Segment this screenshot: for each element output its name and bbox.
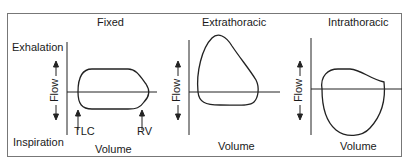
rv-label: RV [137, 126, 152, 137]
fixed-loop [78, 69, 149, 109]
flow-label-fixed: Flow [49, 79, 60, 102]
flow-label-intrathoracic: Flow [293, 79, 304, 102]
flow-label-extrathoracic: Flow [171, 79, 182, 102]
volume-label-intrathoracic: Volume [340, 141, 377, 152]
panel-title-intrathoracic: Intrathoracic [328, 17, 389, 28]
extrathoracic-loop [198, 35, 259, 105]
intrathoracic-loop [322, 69, 385, 135]
tlc-label: TLC [74, 126, 95, 137]
inspiration-label: Inspiration [13, 137, 64, 148]
volume-label-extrathoracic: Volume [218, 141, 255, 152]
panel-title-fixed: Fixed [97, 17, 124, 28]
panel-title-extrathoracic: Extrathoracic [202, 17, 266, 28]
volume-label-fixed: Volume [95, 144, 132, 155]
exhalation-label: Exhalation [12, 42, 63, 53]
